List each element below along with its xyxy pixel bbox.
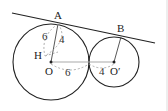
- label-o-prime: O′: [110, 65, 120, 77]
- length-4-bottom: 4: [99, 65, 105, 77]
- label-a: A: [54, 9, 62, 21]
- point-o: [50, 61, 53, 64]
- label-o: O: [45, 65, 53, 77]
- point-o-prime: [113, 61, 116, 64]
- radius-oa: [51, 24, 58, 62]
- length-6-bottom: 6: [65, 66, 71, 78]
- radius-o-prime-b: [114, 37, 121, 62]
- geometry-figure: A B H O O′ 6 4 6 4: [0, 0, 168, 111]
- perpendicular-h: [45, 52, 58, 56]
- length-4-left: 4: [59, 33, 65, 45]
- label-h: H: [34, 49, 42, 61]
- right-edge-divider: [166, 0, 168, 111]
- label-b: B: [117, 22, 124, 34]
- length-6-left: 6: [42, 30, 48, 42]
